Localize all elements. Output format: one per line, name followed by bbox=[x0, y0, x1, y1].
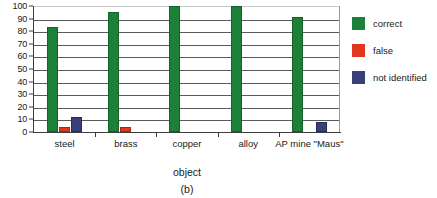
bar-group-bars bbox=[279, 7, 340, 132]
bar-chart-figure: 1009080706050403020100 object (b) steelb… bbox=[0, 0, 437, 198]
legend-label: false bbox=[373, 45, 393, 56]
y-axis-tick-mark bbox=[29, 94, 33, 95]
bar-notidentified bbox=[71, 117, 82, 132]
y-axis-tick-mark bbox=[29, 81, 33, 82]
bar-group bbox=[34, 7, 95, 132]
y-axis-tick-label: 60 bbox=[17, 52, 27, 61]
y-axis-tick-mark bbox=[29, 6, 33, 7]
x-axis-category-label: steel bbox=[55, 138, 75, 149]
bar-correct bbox=[292, 17, 303, 132]
bar-group-bars bbox=[218, 7, 279, 132]
x-axis-tick-mark bbox=[95, 133, 96, 137]
y-axis-tick-label: 10 bbox=[17, 115, 27, 124]
y-axis-tick-label: 80 bbox=[17, 27, 27, 36]
bar-group bbox=[218, 7, 279, 132]
legend-swatch-icon bbox=[352, 17, 365, 30]
x-axis-category-label: alloy bbox=[238, 138, 258, 149]
figure-caption: (b) bbox=[34, 183, 340, 195]
plot-area bbox=[34, 6, 340, 132]
bar-group bbox=[95, 7, 156, 132]
y-axis-tick-mark bbox=[29, 106, 33, 107]
y-axis-tick-mark bbox=[29, 69, 33, 70]
y-axis-tick-mark bbox=[29, 56, 33, 57]
bar-group-bars bbox=[156, 7, 217, 132]
bar-group-bars bbox=[95, 7, 156, 132]
x-axis-tick-mark bbox=[279, 133, 280, 137]
bar-group bbox=[279, 7, 340, 132]
bar-correct bbox=[169, 6, 180, 132]
x-axis-tick-mark bbox=[156, 133, 157, 137]
y-axis-tick-label: 100 bbox=[13, 2, 27, 11]
y-axis-tick-mark bbox=[29, 132, 33, 133]
y-axis-tick-label: 70 bbox=[17, 39, 27, 48]
y-axis-tick-label: 20 bbox=[17, 102, 27, 111]
legend-label: not identified bbox=[373, 72, 427, 83]
y-axis-tick-label: 40 bbox=[17, 77, 27, 86]
y-axis-tick-label: 90 bbox=[17, 14, 27, 23]
y-axis-tick-mark bbox=[29, 119, 33, 120]
legend-item[interactable]: correct bbox=[352, 10, 437, 37]
bar-correct bbox=[231, 6, 242, 132]
x-axis-category-label: copper bbox=[172, 138, 201, 149]
x-axis-line bbox=[33, 132, 341, 133]
plot-block: 1009080706050403020100 object (b) steelb… bbox=[0, 6, 350, 146]
bar-group-bars bbox=[34, 7, 95, 132]
y-axis-tick-label: 0 bbox=[22, 128, 27, 137]
bar-correct bbox=[47, 27, 58, 132]
bar-correct bbox=[108, 12, 119, 132]
x-axis-title: object bbox=[34, 166, 340, 178]
y-axis-tick-label: 50 bbox=[17, 65, 27, 74]
x-axis-tick-mark bbox=[218, 133, 219, 137]
bar-group bbox=[156, 7, 217, 132]
y-axis-tick-label: 30 bbox=[17, 90, 27, 99]
legend-item[interactable]: not identified bbox=[352, 64, 437, 91]
bar-notidentified bbox=[316, 122, 327, 132]
legend: correctfalsenot identified bbox=[352, 10, 437, 91]
y-axis-tick-mark bbox=[29, 31, 33, 32]
legend-swatch-icon bbox=[352, 44, 365, 57]
y-axis-tick-mark bbox=[29, 43, 33, 44]
legend-label: correct bbox=[373, 18, 402, 29]
x-axis-category-label: brass bbox=[114, 138, 137, 149]
legend-swatch-icon bbox=[352, 71, 365, 84]
legend-item[interactable]: false bbox=[352, 37, 437, 64]
y-axis-tick-mark bbox=[29, 18, 33, 19]
x-axis-category-label: AP mine "Maus" bbox=[275, 138, 343, 149]
y-axis-tick-labels: 1009080706050403020100 bbox=[0, 6, 27, 132]
